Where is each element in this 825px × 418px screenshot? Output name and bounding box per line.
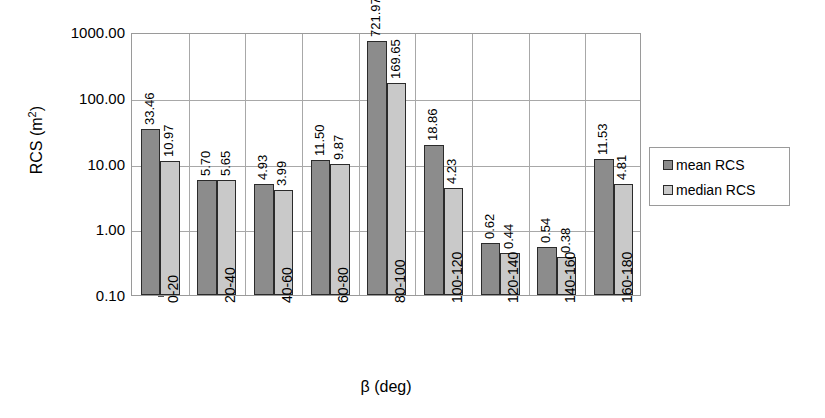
bar-group: 4.933.99	[245, 34, 302, 295]
bar-mean-rcs[interactable]	[594, 159, 614, 295]
legend-item[interactable]: median RCS	[663, 182, 755, 198]
bar-value-label: 3.99	[275, 160, 288, 185]
legend-label: median RCS	[676, 182, 755, 198]
bar-group: 11.509.87	[302, 34, 359, 295]
x-axis-tick-label: 0-20	[165, 275, 181, 303]
y-axis-ticks: 1000.00100.0010.001.000.10	[33, 33, 125, 296]
bar-value-label: 4.81	[615, 155, 628, 180]
legend-swatch-icon	[663, 160, 673, 170]
y-axis-tick-label: 0.10	[39, 288, 125, 303]
bar-value-label: 721.97	[369, 0, 382, 37]
bar-value-label: 0.38	[559, 228, 572, 253]
y-axis-title-text: RCS (m	[28, 117, 45, 174]
bar-value-label: 11.50	[313, 124, 326, 156]
bar-value-label: 169.65	[389, 39, 402, 79]
y-axis-title: RCS (m2)	[26, 60, 46, 220]
bar-group: 721.97169.65	[359, 34, 416, 295]
bar-mean-rcs[interactable]	[141, 129, 161, 295]
bar-mean-rcs[interactable]	[537, 247, 557, 295]
bar-mean-rcs[interactable]	[481, 243, 501, 295]
bar-mean-rcs[interactable]	[424, 145, 444, 295]
bar-value-label: 11.53	[596, 124, 609, 156]
bar-value-label: 0.62	[483, 214, 496, 239]
y-axis-title-suffix: )	[28, 106, 45, 111]
x-axis-tick-label: 120-140	[505, 252, 521, 303]
bar-mean-rcs[interactable]	[311, 160, 331, 295]
x-axis-tick-label: 40-60	[279, 267, 295, 303]
x-axis-tick-label: 140-160	[562, 252, 578, 303]
chart-legend: mean RCSmedian RCS	[649, 147, 790, 206]
bar-value-label: 5.70	[199, 150, 212, 175]
y-axis-title-exponent: 2	[26, 111, 38, 117]
bar-value-label: 18.86	[426, 109, 439, 142]
x-axis-tick-label: 160-180	[619, 252, 635, 303]
bar-value-label: 4.93	[256, 154, 269, 179]
x-axis-tick-label: 80-100	[392, 259, 408, 303]
legend-item[interactable]: mean RCS	[663, 157, 744, 173]
bar-mean-rcs[interactable]	[197, 180, 217, 295]
y-axis-tick-label: 1000.00	[39, 25, 125, 40]
x-axis-title: β (deg)	[0, 378, 772, 396]
bar-mean-rcs[interactable]	[367, 41, 387, 295]
y-axis-tick-label: 10.00	[39, 157, 125, 172]
bar-value-label: 9.87	[332, 135, 345, 160]
bar-group: 33.4610.97	[132, 34, 189, 295]
legend-label: mean RCS	[676, 157, 744, 173]
bar-value-label: 33.46	[143, 92, 156, 125]
bar-value-label: 4.23	[445, 159, 458, 184]
bar-group: 5.705.65	[189, 34, 246, 295]
bar-value-label: 0.54	[539, 218, 552, 243]
bar-value-label: 0.44	[502, 223, 515, 248]
bar-value-label: 10.97	[162, 124, 175, 157]
x-axis-tick-label: 100-120	[449, 252, 465, 303]
y-axis-tick-label: 100.00	[39, 91, 125, 106]
legend-swatch-icon	[663, 185, 673, 195]
y-axis-tick-label: 1.00	[39, 222, 125, 237]
rcs-bar-chart: 1000.00100.0010.001.000.10 RCS (m2) 33.4…	[0, 0, 825, 418]
x-axis-tick-label: 60-80	[335, 267, 351, 303]
x-axis-tick-label: 20-40	[222, 267, 238, 303]
bar-mean-rcs[interactable]	[254, 184, 274, 295]
bar-value-label: 5.65	[219, 151, 232, 176]
